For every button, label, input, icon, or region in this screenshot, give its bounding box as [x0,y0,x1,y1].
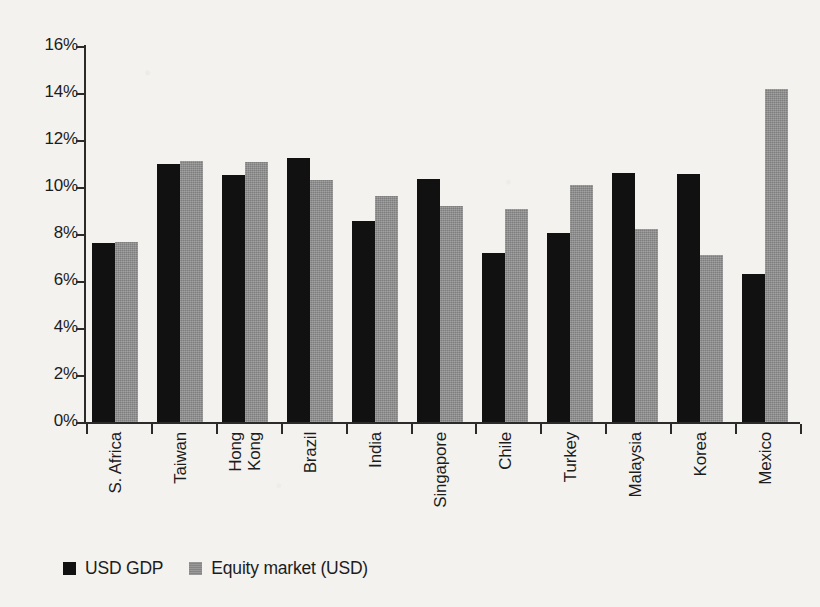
bar-equity-market [700,255,723,422]
bar-usd-gdp [482,253,505,422]
bar-usd-gdp [612,173,635,422]
bar-usd-gdp [92,243,115,422]
x-axis-category-label: Malaysia [626,432,645,582]
bar-usd-gdp [742,274,765,422]
legend-item-label: USD GDP [85,558,163,579]
x-axis-tick-mark [475,424,477,434]
bar-equity-market [765,89,788,422]
chart-legend: USD GDPEquity market (USD) [63,558,368,579]
x-axis-tick-mark [216,424,218,434]
bar-equity-market [375,196,398,422]
legend-item-label: Equity market (USD) [211,558,368,579]
bar-usd-gdp [157,164,180,423]
x-axis-category-label: India [366,432,385,582]
x-axis-tick-mark [605,424,607,434]
legend-item[interactable]: Equity market (USD) [189,558,368,579]
bar-equity-market [310,180,333,422]
x-axis-tick-mark [86,424,88,434]
bar-equity-market [180,161,203,422]
bar-usd-gdp [352,221,375,422]
bar-usd-gdp [547,233,570,422]
bar-equity-market [570,185,593,422]
x-axis-tick-mark [540,424,542,434]
bar-usd-gdp [417,179,440,422]
x-axis-category-label: Mexico [756,432,775,582]
x-axis-tick-mark [800,424,802,434]
gray-square-icon [189,562,202,575]
x-axis-category-label: Turkey [561,432,580,582]
bar-equity-market [115,242,138,422]
x-axis-tick-mark [411,424,413,434]
x-axis-tick-mark [281,424,283,434]
bar-usd-gdp [222,175,245,422]
x-axis-category-label: Singapore [431,432,450,582]
black-square-icon [63,562,76,575]
x-axis-tick-mark [151,424,153,434]
bar-usd-gdp [677,174,700,422]
legend-item[interactable]: USD GDP [63,558,163,579]
x-axis-tick-mark [670,424,672,434]
x-axis-category-label: Chile [496,432,515,582]
bar-equity-market [505,209,528,422]
bar-usd-gdp [287,158,310,422]
bar-equity-market [635,229,658,422]
x-axis-category-label: Korea [691,432,710,582]
x-axis-tick-mark [346,424,348,434]
grouped-bar-chart: 0%2%4%6%8%10%12%14%16% S. AfricaTaiwanHo… [0,0,820,607]
bar-equity-market [245,162,268,422]
bar-equity-market [440,206,463,422]
x-axis-tick-mark [735,424,737,434]
